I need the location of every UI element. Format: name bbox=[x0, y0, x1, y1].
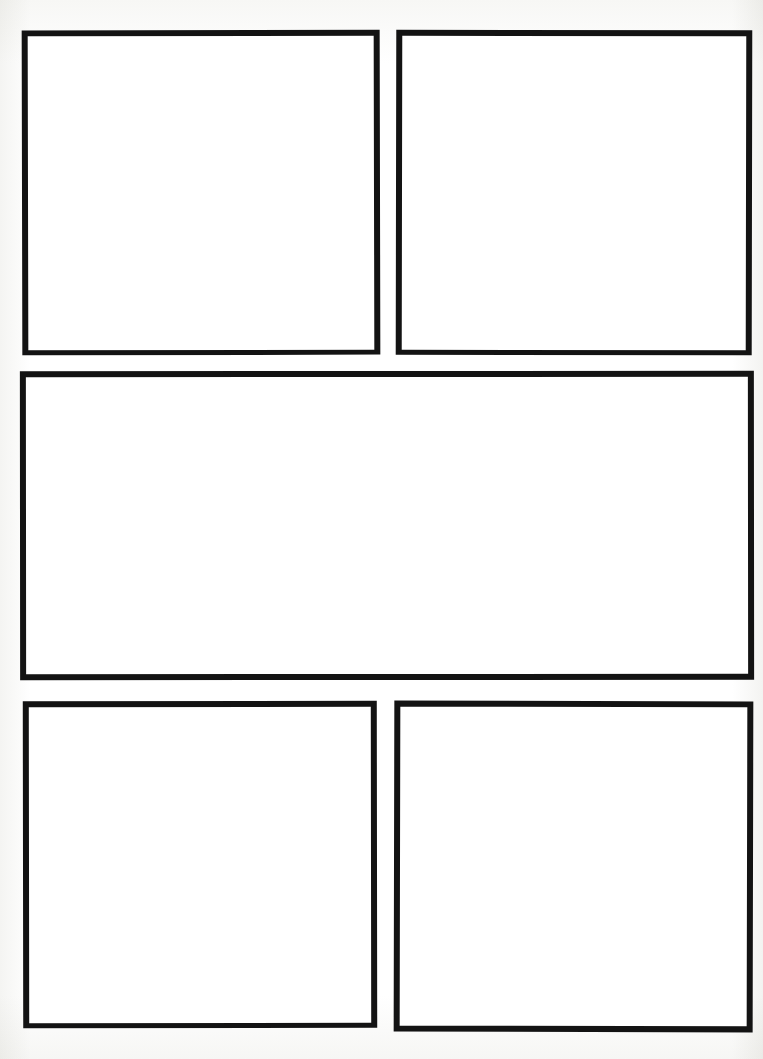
panel-content-area[interactable] bbox=[29, 707, 371, 1023]
comic-panel-bottom-right[interactable] bbox=[394, 701, 754, 1033]
panel-content-area[interactable] bbox=[28, 36, 375, 351]
panel-content-area[interactable] bbox=[400, 707, 748, 1027]
comic-panel-top-left[interactable] bbox=[22, 30, 381, 356]
comic-panel-bottom-left[interactable] bbox=[23, 701, 377, 1028]
comic-panel-top-right[interactable] bbox=[396, 30, 753, 356]
comic-page bbox=[0, 0, 763, 1059]
panel-content-area[interactable] bbox=[26, 377, 748, 675]
panel-content-area[interactable] bbox=[402, 36, 747, 351]
comic-panel-middle-wide[interactable] bbox=[20, 371, 754, 681]
